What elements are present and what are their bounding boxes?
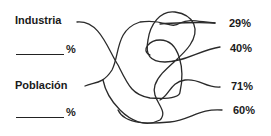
- blank-industria[interactable]: [16, 54, 64, 55]
- percent-sign-industria: %: [66, 43, 76, 55]
- tangle-line-71: [160, 80, 220, 100]
- value-29: 29%: [229, 17, 251, 29]
- percent-sign-poblacion: %: [66, 106, 76, 118]
- label-industria: Industria: [15, 14, 61, 26]
- tangle-line-29: [160, 23, 215, 24]
- value-60: 60%: [233, 104, 255, 116]
- value-71: 71%: [231, 80, 253, 92]
- value-40: 40%: [230, 42, 252, 54]
- blank-poblacion[interactable]: [16, 117, 64, 118]
- tangle-line-industria: [77, 22, 182, 99]
- tangle-line-60: [118, 110, 222, 123]
- label-poblacion: Población: [15, 79, 68, 91]
- tangle-line-40: [103, 12, 220, 123]
